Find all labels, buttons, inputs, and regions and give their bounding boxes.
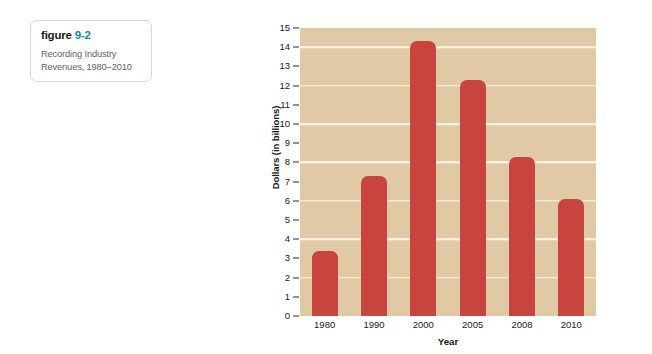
y-axis-tick-label: 11 [274,100,290,110]
figure-label: figure [41,29,72,41]
y-axis-tick-mark [293,239,299,240]
bar [558,199,584,316]
bar [410,41,436,316]
y-axis-tick-mark [293,47,299,48]
y-axis-tick-label: 7 [274,177,290,187]
bars-layer [300,28,596,316]
y-axis-tick-mark [293,124,299,125]
y-axis-tick-label: 4 [274,234,290,244]
y-axis-tick-label: 0 [274,311,290,321]
figure-caption-subtitle-line-2: Revenues, 1980–2010 [41,61,141,74]
y-axis-tick-label: 1 [274,292,290,302]
y-axis-tick-mark [293,162,299,163]
figure-caption-card: figure 9-2 Recording Industry Revenues, … [30,20,152,82]
y-axis-tick-mark [293,316,299,317]
y-axis-tick-mark [293,200,299,201]
y-axis-tick-mark [293,28,299,29]
bar-chart: Dollars (in billions) 012345678910111213… [252,22,612,342]
y-axis-tick-mark [293,143,299,144]
y-axis-tick-mark [293,296,299,297]
y-axis-tick-labels: 0123456789101112131415 [274,28,290,316]
y-axis-tick-mark [293,220,299,221]
x-axis-tick-label: 2010 [546,320,596,330]
plot-area [300,28,596,316]
y-axis-tick-mark [293,258,299,259]
y-axis-tick-mark [293,277,299,278]
figure-caption-subtitle-line-1: Recording Industry [41,48,141,61]
x-axis-tick-label: 2000 [398,320,448,330]
y-axis-tick-label: 14 [274,42,290,52]
y-axis-tick-mark [293,66,299,67]
bar [460,80,486,316]
bar [509,157,535,316]
bar [361,176,387,316]
y-axis-tick-label: 13 [274,62,290,72]
y-axis-tick-marks [293,28,299,316]
y-axis-tick-label: 2 [274,273,290,283]
x-axis-tick-label: 1990 [349,320,399,330]
x-axis-tick-label: 2008 [497,320,547,330]
x-axis-tick-labels: 198019902000200520082010 [300,320,596,334]
y-axis-tick-label: 5 [274,215,290,225]
x-axis-title: Year [300,336,596,347]
bar [312,251,338,316]
y-axis-tick-label: 6 [274,196,290,206]
y-axis-tick-mark [293,85,299,86]
y-axis-tick-label: 15 [274,23,290,33]
y-axis-tick-label: 9 [274,138,290,148]
figure-caption-heading: figure 9-2 [41,29,141,42]
figure-caption-subtitle: Recording Industry Revenues, 1980–2010 [41,48,141,74]
x-axis-tick-label: 2005 [448,320,498,330]
y-axis-tick-label: 8 [274,158,290,168]
figure-number: 9-2 [75,29,91,41]
x-axis-tick-label: 1980 [300,320,350,330]
y-axis-tick-label: 12 [274,81,290,91]
y-axis-tick-mark [293,181,299,182]
y-axis-tick-mark [293,104,299,105]
y-axis-tick-label: 10 [274,119,290,129]
y-axis-tick-label: 3 [274,254,290,264]
